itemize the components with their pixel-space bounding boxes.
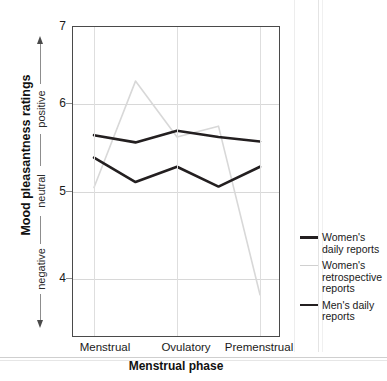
x-tick-label-ovulatory: Ovulatory <box>161 341 210 353</box>
x-axis-title: Menstrual phase <box>72 359 280 373</box>
chart-figure: positive neutral negative Mood pleasantn… <box>0 0 387 381</box>
x-tick-label-menstrual: Menstrual <box>80 341 131 353</box>
legend-swatch-line-icon <box>300 265 318 266</box>
y-axis <box>48 20 72 345</box>
legend-item-womens-daily-reports: Women's daily reports <box>300 232 384 255</box>
legend-label-womens-retrospective-reports: Women's retrospective reports <box>322 260 384 295</box>
x-tick-label-premenstrual: Premenstrual <box>225 341 293 353</box>
y-tick-label-4: 4 <box>48 271 66 285</box>
y-tick-mark-5 <box>66 191 72 192</box>
legend-label-mens-daily-reports: Men's daily reports <box>322 300 384 323</box>
y-tick-mark-4 <box>66 278 72 279</box>
gridline-y-4 <box>73 279 279 280</box>
gridline-y-6 <box>73 104 279 105</box>
scale-word-neutral: neutral <box>34 166 48 216</box>
y-tick-label-6: 6 <box>48 96 66 110</box>
gridline-x-menstrual <box>94 27 95 336</box>
gridline-x-ovulatory <box>177 27 178 336</box>
legend-swatch-line-icon <box>300 236 318 239</box>
gridline-x-premenstrual <box>260 27 261 336</box>
page-bottom-rule <box>0 357 387 358</box>
plot-area <box>72 26 280 337</box>
scale-word-negative: negative <box>34 244 48 294</box>
y-tick-mark-6 <box>66 103 72 104</box>
scale-word-positive: positive <box>34 84 48 134</box>
chart-legend: Women's daily reports Women's retrospect… <box>300 232 384 328</box>
arrow-down-icon <box>37 320 43 328</box>
mood-scale-annotation: positive neutral negative <box>34 34 48 330</box>
page-seam-line <box>294 0 295 352</box>
y-axis-title: Mood pleasantness ratings <box>19 57 33 253</box>
legend-swatch-line-icon <box>300 304 318 307</box>
y-tick-label-5: 5 <box>48 184 66 198</box>
legend-item-mens-daily-reports: Men's daily reports <box>300 300 384 323</box>
arrow-up-icon <box>37 36 43 44</box>
y-tick-label-7: 7 <box>48 19 66 33</box>
gridline-y-5 <box>73 192 279 193</box>
legend-label-womens-daily-reports: Women's daily reports <box>322 232 384 255</box>
legend-item-womens-retrospective-reports: Women's retrospective reports <box>300 260 384 295</box>
